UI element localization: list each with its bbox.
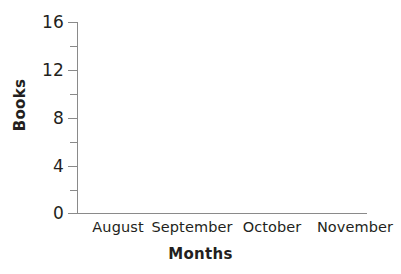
y-tick-label-4: 4 (53, 158, 64, 175)
x-tick-label-september: September (151, 219, 232, 235)
plot-area (78, 22, 367, 213)
x-tick-label-august: August (92, 219, 143, 235)
chart-figure: Books 16 12 8 4 0 August September Octob… (0, 0, 401, 274)
y-tick-label-16: 16 (42, 14, 64, 31)
x-axis-line (77, 213, 367, 214)
y-axis-title: Books (11, 65, 29, 145)
x-tick-label-october: October (243, 219, 302, 235)
y-tick-label-8: 8 (53, 110, 64, 127)
x-axis-title: Months (0, 245, 401, 263)
x-tick-label-november: November (317, 219, 393, 235)
y-tick-label-12: 12 (42, 62, 64, 79)
y-tick-label-0: 0 (53, 205, 64, 222)
